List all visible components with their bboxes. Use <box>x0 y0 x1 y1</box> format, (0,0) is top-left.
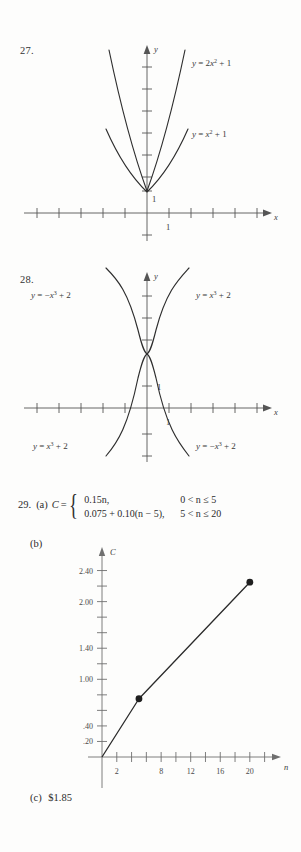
x-value-mark-28: 1 <box>166 417 170 427</box>
part-c-label: (c) <box>30 792 42 803</box>
case-expression-2: 0.075 + 0.10(n − 5), <box>84 508 180 519</box>
chart-y-tick-label: 1.40 <box>79 644 93 653</box>
curve-label-x2-plus-1: y = x2 + 1 <box>191 129 227 139</box>
chart-y-tick-label: .40 <box>83 722 93 731</box>
chart-y-axis-arrow <box>99 547 105 556</box>
piecewise-brace: { <box>69 490 78 518</box>
figure-28-axes <box>24 272 272 462</box>
curve-label-neg-x3-bottom-right: y = −x3 + 2 <box>195 441 236 451</box>
chart-y-tick-label: .20 <box>83 737 93 746</box>
y-value-mark-27: 1 <box>152 194 156 204</box>
chart-x-axis-label: n <box>284 762 288 772</box>
figure-27-axes <box>24 45 272 241</box>
case-condition-2: 5 < n ≤ 20 <box>180 508 221 519</box>
x-axis-label-28: x <box>273 407 278 417</box>
chart-y-tick-labels: .20.401.001.402.002.40 <box>79 567 93 747</box>
y-axis-label-28: y <box>153 271 158 281</box>
chart-x-axis-arrow <box>272 754 281 760</box>
part-c-value: $1.85 <box>48 792 72 803</box>
y-value-mark-28: 1 <box>157 382 161 392</box>
piecewise-case-row: 0.075 + 0.10(n − 5), 5 < n ≤ 20 <box>84 508 221 519</box>
curve-label-neg-x3-top-left: y = −x3 + 2 <box>30 290 71 300</box>
x-axis-arrow-27 <box>263 210 272 217</box>
case-condition-1: 0 < n ≤ 5 <box>180 494 216 505</box>
piecewise-cases: 0.15n, 0 < n ≤ 5 0.075 + 0.10(n − 5), 5 … <box>84 490 221 519</box>
exercise-29: 29. (a) C = { 0.15n, 0 < n ≤ 5 0.075 + 0… <box>0 490 301 519</box>
x-value-mark-27: 1 <box>166 222 170 232</box>
chart-x-tick-label: 8 <box>159 767 163 776</box>
y-axis-label-27: y <box>153 44 158 54</box>
textbook-answer-page: 27. <box>0 0 301 852</box>
chart-data-point <box>136 695 143 702</box>
curve-label-x3-bottom-left: y = x3 + 2 <box>32 441 68 451</box>
chart-x-tick-labels: 28121620 <box>115 767 254 776</box>
equals-sign: = <box>61 490 67 510</box>
curve-label-2x2-plus-1: y = 2x2 + 1 <box>191 58 231 68</box>
cost-vs-n-chart: .20.401.001.402.002.40 28121620 C n <box>0 530 301 795</box>
chart-y-tick-label: 1.00 <box>79 675 93 684</box>
piecewise-case-row: 0.15n, 0 < n ≤ 5 <box>84 494 221 505</box>
chart-x-tick-label: 20 <box>246 767 254 776</box>
chart-y-tick-label: 2.00 <box>79 598 93 607</box>
part-c-answer-row: (c) $1.85 <box>30 792 72 803</box>
function-name-C: C <box>52 490 59 510</box>
chart-x-tick-label: 16 <box>216 767 224 776</box>
y-axis-arrow-28 <box>144 272 151 281</box>
chart-x-tick-label: 2 <box>115 767 119 776</box>
x-axis-label-27: x <box>273 212 278 222</box>
chart-x-tick-label: 12 <box>187 767 195 776</box>
chart-data-point <box>246 579 253 586</box>
x-axis-arrow-28 <box>263 405 272 412</box>
y-axis-arrow-27 <box>144 45 151 54</box>
part-a-label: (a) <box>36 490 48 510</box>
exercise-29-part-a: 29. (a) C = { 0.15n, 0 < n ≤ 5 0.075 + 0… <box>0 490 301 519</box>
chart-series-line <box>102 582 250 757</box>
exercise-number-29: 29. <box>18 490 31 510</box>
case-expression-1: 0.15n, <box>84 494 180 505</box>
figure-27: y x 1 1 y = 2x2 + 1 y = x2 + 1 <box>0 36 301 246</box>
chart-y-tick-label: 2.40 <box>79 567 93 576</box>
chart-y-axis-label: C <box>110 547 116 557</box>
figure-28: y x 1 1 y = −x3 + 2 y = x3 + 2 y = x3 + … <box>0 266 301 466</box>
curve-label-x3-top-right: y = x3 + 2 <box>195 290 231 300</box>
